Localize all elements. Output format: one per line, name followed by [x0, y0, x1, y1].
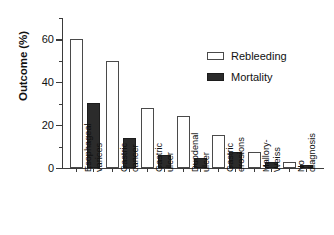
bar-rebleeding — [177, 116, 190, 169]
x-axis-labels: EsophagealvaricesGastriccancerGastriculc… — [62, 172, 324, 235]
x-axis-label: Esophagealvarices — [83, 102, 104, 172]
legend-swatch-rebleeding-icon — [207, 52, 224, 60]
x-axis-label: Mallory-Weiss — [261, 102, 282, 172]
bar-rebleeding — [283, 162, 296, 168]
y-tick-major — [56, 168, 62, 169]
bar-rebleeding — [212, 135, 225, 168]
x-axis-label: Nodiagnosis — [296, 102, 317, 172]
y-tick-label: 0 — [48, 162, 54, 174]
chart-legend: Rebleeding Mortality — [207, 50, 287, 92]
bar-chart: Outcome (%) 0204060 EsophagealvaricesGas… — [0, 0, 334, 235]
x-axis-label: Duodenalulcer — [190, 102, 211, 172]
legend-label-mortality: Mortality — [231, 71, 273, 83]
bar-rebleeding — [70, 39, 83, 168]
bar-rebleeding — [141, 108, 154, 168]
y-tick-label: 60 — [42, 33, 54, 45]
y-axis-title: Outcome (%) — [17, 11, 29, 121]
x-axis-label: Gastricerosions — [225, 102, 246, 172]
legend-label-rebleeding: Rebleeding — [231, 50, 287, 62]
x-axis-label: Gastriculcer — [154, 102, 175, 172]
legend-item-rebleeding: Rebleeding — [207, 50, 287, 62]
x-axis-label: Gastriccancer — [119, 102, 140, 172]
legend-item-mortality: Mortality — [207, 71, 287, 83]
y-tick-label: 40 — [42, 76, 54, 88]
legend-swatch-mortality-icon — [207, 73, 224, 81]
bar-rebleeding — [248, 152, 261, 168]
y-tick-label: 20 — [42, 119, 54, 131]
bar-rebleeding — [106, 61, 119, 168]
